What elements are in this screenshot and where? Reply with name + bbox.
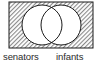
universe-region <box>9 2 93 48</box>
venn-diagram-figure: senators infants <box>0 0 102 67</box>
set-label-infants: infants <box>56 51 83 63</box>
venn-label-row: senators infants <box>0 50 102 65</box>
set-label-senators: senators <box>3 51 39 63</box>
